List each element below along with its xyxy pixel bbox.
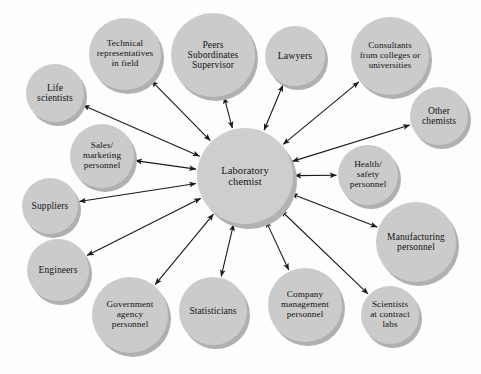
node-health-safety-personnel[interactable]: Health/ safety personnel: [338, 145, 398, 205]
node-label-peers-subordinates: Peers Subordinates Supervisor: [186, 40, 241, 71]
edge-laboratory-chemist-to-government-agency: [155, 214, 213, 284]
node-suppliers[interactable]: Suppliers: [22, 178, 78, 234]
edge-laboratory-chemist-to-engineers: [87, 198, 201, 255]
node-sales-marketing[interactable]: Sales/ marketing personnel: [70, 124, 134, 188]
node-label-health-safety-personnel: Health/ safety personnel: [348, 160, 389, 190]
node-manufacturing-personnel[interactable]: Manufacturing personnel: [376, 202, 456, 282]
node-life-scientists[interactable]: Life scientists: [26, 64, 84, 122]
node-label-company-management: Company management personnel: [279, 290, 331, 320]
edge-laboratory-chemist-to-consultants-colleges: [283, 82, 359, 145]
node-label-life-scientists: Life scientists: [35, 83, 75, 104]
node-laboratory-chemist[interactable]: Laboratory chemist: [197, 128, 293, 224]
node-label-government-agency: Government agency personnel: [105, 300, 156, 330]
edge-laboratory-chemist-to-sales-marketing: [135, 161, 196, 170]
node-other-chemists[interactable]: Other chemists: [410, 87, 468, 145]
node-label-scientists-contract-labs: Scientists at contract labs: [368, 300, 412, 330]
edge-laboratory-chemist-to-company-management: [266, 221, 289, 270]
node-label-lawyers: Lawyers: [276, 51, 314, 62]
node-engineers[interactable]: Engineers: [27, 239, 89, 301]
node-technical-representatives[interactable]: Technical representatives in field: [89, 18, 161, 90]
node-label-sales-marketing: Sales/ marketing personnel: [81, 141, 123, 171]
edge-laboratory-chemist-to-peers-subordinates: [224, 97, 232, 128]
node-label-suppliers: Suppliers: [30, 201, 71, 211]
node-company-management[interactable]: Company management personnel: [268, 268, 342, 342]
node-label-technical-representatives: Technical representatives in field: [95, 39, 156, 69]
node-label-other-chemists: Other chemists: [420, 106, 458, 127]
edge-laboratory-chemist-to-lawyers: [264, 85, 283, 130]
node-peers-subordinates[interactable]: Peers Subordinates Supervisor: [171, 13, 255, 97]
node-statisticians[interactable]: Statisticians: [179, 277, 247, 345]
node-label-laboratory-chemist: Laboratory chemist: [219, 165, 271, 188]
node-government-agency[interactable]: Government agency personnel: [92, 277, 168, 353]
node-lawyers[interactable]: Lawyers: [265, 26, 325, 86]
node-scientists-contract-labs[interactable]: Scientists at contract labs: [361, 286, 419, 344]
node-consultants-colleges[interactable]: Consultants from colleges or universitie…: [351, 17, 429, 95]
diagram-canvas: Life scientistsTechnical representatives…: [0, 0, 481, 374]
node-label-statisticians: Statisticians: [187, 306, 238, 316]
node-label-manufacturing-personnel: Manufacturing personnel: [385, 232, 447, 253]
node-label-consultants-colleges: Consultants from colleges or universitie…: [358, 41, 423, 70]
node-label-engineers: Engineers: [37, 265, 80, 275]
edge-laboratory-chemist-to-statisticians: [221, 224, 233, 276]
